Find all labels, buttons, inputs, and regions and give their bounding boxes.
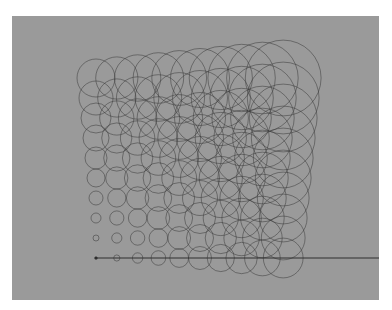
grid-circle: [156, 95, 203, 142]
grid-circle: [160, 139, 199, 178]
grid-circle: [201, 178, 240, 217]
grid-circle: [135, 75, 182, 122]
grid-circle: [120, 121, 154, 155]
grid-circle: [177, 115, 224, 162]
grid-circle: [110, 211, 124, 225]
grid-circle: [98, 79, 136, 117]
grid-circle: [147, 207, 170, 230]
grid-circle: [152, 51, 207, 106]
grid-circle: [227, 42, 299, 114]
grid-circle: [191, 68, 250, 127]
grid-circle: [112, 233, 122, 243]
grid-circle: [253, 128, 313, 188]
grid-circle: [185, 203, 216, 234]
grid-circle: [233, 108, 293, 168]
grid-circle: [128, 209, 146, 227]
grid-circle: [141, 141, 176, 176]
grid-circle: [171, 49, 230, 108]
grid-circle: [118, 99, 156, 137]
grid-circle: [89, 191, 103, 205]
grid-circle: [93, 235, 99, 241]
grid-circle: [108, 189, 126, 207]
grid-circle: [102, 123, 132, 153]
origin-point: [94, 256, 97, 259]
grid-circle: [100, 101, 134, 135]
grid-circle: [164, 183, 195, 214]
grid-circle: [222, 198, 261, 237]
grid-circle: [212, 88, 271, 147]
circle-grid: [77, 40, 321, 278]
grid-circle: [139, 119, 178, 158]
grid-circle: [143, 163, 174, 194]
grid-circle: [87, 169, 105, 187]
grid-circle: [235, 130, 291, 186]
grid-circle: [245, 40, 321, 116]
grid-circle: [91, 213, 101, 223]
grid-circle: [243, 218, 283, 258]
circle-grid-diagram: [0, 0, 392, 310]
grid-circle: [122, 143, 152, 173]
grid-circle: [124, 165, 150, 191]
grid-circle: [79, 81, 113, 115]
grid-circle: [181, 159, 220, 198]
grid-circle: [130, 231, 144, 245]
grid-circle: [247, 62, 319, 134]
grid-circle: [255, 150, 311, 206]
grid-circle: [81, 103, 111, 133]
grid-circle: [149, 229, 168, 248]
grid-circle: [205, 222, 236, 253]
grid-circle: [168, 227, 191, 250]
